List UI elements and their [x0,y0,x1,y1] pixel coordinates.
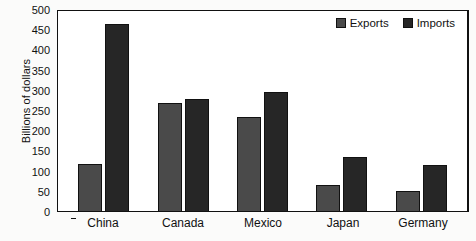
y-tick-label: 100 [18,166,50,178]
y-tick-label: 400 [18,44,50,56]
bar-mexico-exports[interactable] [237,117,261,211]
bar-china-imports[interactable] [105,24,129,211]
bar-group [237,11,288,211]
y-tick-label: 200 [18,125,50,137]
bar-group [158,11,209,211]
y-tick-label: 250 [18,105,50,117]
y-tick-label: 50 [18,186,50,198]
y-tick-label: 0 [18,206,50,218]
bar-group [78,11,129,211]
bar-germany-imports[interactable] [423,165,447,211]
legend-item-exports[interactable]: Exports [336,17,389,29]
legend-label: Imports [417,17,455,29]
bars-layer [58,11,467,211]
bar-group [396,11,447,211]
x-axis-tick-labels: ChinaCanadaMexicoJapanGermany [57,216,469,230]
legend-swatch-icon [403,18,413,28]
legend-item-imports[interactable]: Imports [403,17,455,29]
y-tick-label: 450 [18,24,50,36]
bar-germany-exports[interactable] [396,191,420,211]
bar-chart: Billions of dollars 50045040035030025020… [0,0,476,241]
chart-legend: ExportsImports [336,17,455,29]
bar-group [316,11,367,211]
bar-canada-exports[interactable] [158,103,182,211]
x-tick-label-canada: Canada [158,216,209,230]
bar-china-exports[interactable] [78,164,102,211]
x-tick-label-germany: Germany [398,216,449,230]
plot-area: ExportsImports [57,10,469,212]
y-tick-label: 500 [18,4,50,16]
bar-mexico-imports[interactable] [264,92,288,211]
y-tick-label: 350 [18,65,50,77]
bar-japan-exports[interactable] [316,185,340,211]
y-axis-tick-labels: 500450400350300250200150100500 [18,5,50,217]
x-tick-label-china: China [78,216,129,230]
legend-swatch-icon [336,18,346,28]
y-tick-label: 150 [18,145,50,157]
legend-label: Exports [350,17,389,29]
bar-japan-imports[interactable] [343,157,367,211]
x-tick-label-mexico: Mexico [238,216,289,230]
bar-canada-imports[interactable] [185,99,209,211]
y-tick-label: 300 [18,85,50,97]
x-tick-label-japan: Japan [318,216,369,230]
